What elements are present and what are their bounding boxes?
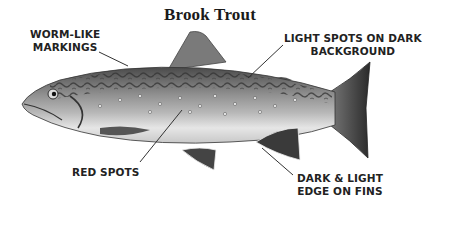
label-light-spots: LIGHT SPOTS ON DARK BACKGROUND	[284, 32, 422, 58]
dorsal-fin	[168, 32, 226, 71]
caudal-fin	[330, 62, 370, 158]
label-red-spots: RED SPOTS	[72, 166, 139, 179]
pelvic-fin	[182, 148, 216, 170]
label-fin-edges: DARK & LIGHT EDGE ON FINS	[297, 172, 383, 198]
leader-worm	[99, 52, 128, 66]
leader-light-spots	[248, 45, 283, 78]
label-worm-like-markings: WORM-LIKE MARKINGS	[30, 28, 100, 54]
